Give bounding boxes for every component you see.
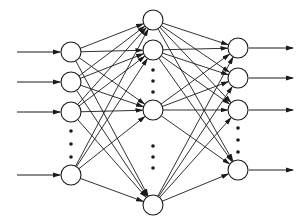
connection-edge bbox=[162, 174, 228, 201]
input-neuron-node bbox=[61, 72, 81, 92]
connection-edge bbox=[162, 23, 228, 45]
connection-edge bbox=[79, 117, 145, 169]
output-neuron-node bbox=[228, 100, 248, 120]
ellipsis-dot bbox=[236, 150, 240, 154]
neuron-nodes bbox=[61, 10, 248, 215]
input-neuron-node bbox=[61, 165, 81, 185]
neural-network-diagram bbox=[0, 0, 308, 223]
hidden-neuron-node bbox=[143, 195, 163, 215]
connection-edge bbox=[160, 27, 231, 102]
output-neuron-node bbox=[228, 160, 248, 180]
connection-edge bbox=[76, 59, 147, 167]
connection-edge bbox=[159, 87, 233, 197]
connection-edge bbox=[76, 29, 148, 166]
connection-edge bbox=[161, 116, 229, 164]
ellipsis-dot bbox=[151, 90, 155, 94]
connection-edge bbox=[80, 178, 143, 201]
ellipsis-dot bbox=[151, 166, 155, 170]
ellipsis-dot bbox=[236, 138, 240, 142]
ellipsis-dot bbox=[151, 144, 155, 148]
connection-edge bbox=[158, 57, 233, 196]
ellipsis-dot bbox=[151, 68, 155, 72]
connection-edge bbox=[77, 90, 148, 196]
ellipsis-dot bbox=[69, 155, 73, 159]
connection-edge bbox=[162, 82, 228, 107]
input-neuron-node bbox=[61, 102, 81, 122]
hidden-neuron-node bbox=[143, 10, 163, 30]
ellipsis-dot bbox=[151, 79, 155, 83]
hidden-neuron-node bbox=[143, 100, 163, 120]
output-neuron-node bbox=[228, 38, 248, 58]
ellipsis-dot bbox=[236, 126, 240, 130]
ellipsis-dot bbox=[151, 155, 155, 159]
ellipsis-dot bbox=[69, 129, 73, 133]
input-neuron-node bbox=[61, 42, 81, 62]
connection-edge bbox=[80, 24, 143, 49]
connection-edge bbox=[78, 120, 146, 198]
connection-edge bbox=[78, 28, 146, 105]
ellipsis-dot bbox=[69, 142, 73, 146]
hidden-neuron-node bbox=[143, 40, 163, 60]
output-neuron-node bbox=[228, 68, 248, 88]
